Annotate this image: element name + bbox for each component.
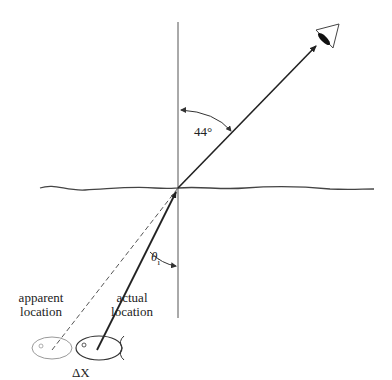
actual-fish (76, 336, 124, 360)
apparent-ray (52, 188, 178, 350)
actual-line1: actual (108, 291, 156, 305)
actual-location-label: actual location (108, 291, 156, 319)
apparent-fish (32, 337, 72, 359)
apparent-line1: apparent (10, 291, 72, 305)
refracted-ray (178, 46, 316, 188)
eye-icon (316, 24, 339, 48)
apparent-location-label: apparent location (10, 291, 72, 319)
incident-ray (97, 192, 176, 350)
water-surface (40, 186, 374, 190)
refracted-angle-label: 44° (194, 125, 212, 139)
arc-arrow-start (180, 107, 186, 113)
actual-line2: location (108, 305, 156, 319)
apparent-line2: location (10, 305, 72, 319)
delta-x-label: ΔX (72, 366, 90, 380)
theta-subscript: i (157, 257, 160, 267)
incident-angle-label: θi (151, 250, 160, 269)
